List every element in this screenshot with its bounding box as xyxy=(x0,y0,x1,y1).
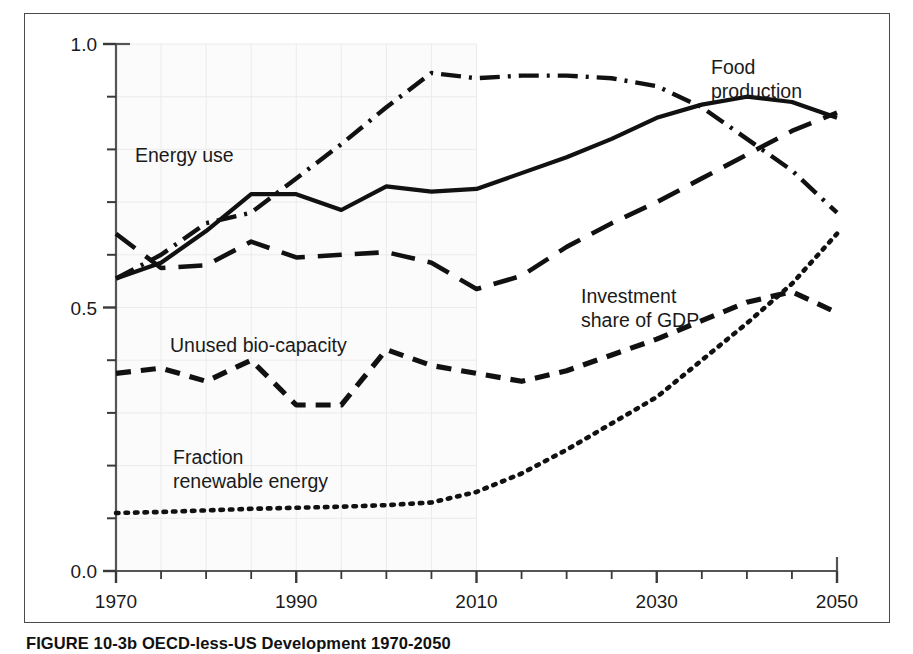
x-tick-label: 2030 xyxy=(636,591,678,612)
line-chart: 19701990201020302050 0.00.51.0 Energy us… xyxy=(25,14,891,624)
x-tick-label: 2010 xyxy=(455,591,497,612)
chart-plot-container: 19701990201020302050 0.00.51.0 Energy us… xyxy=(25,14,891,624)
annotation-energy-use: Energy use xyxy=(135,144,234,166)
y-tick-label: 0.0 xyxy=(71,561,97,582)
annotation-unused-bio-capacity: Unused bio-capacity xyxy=(170,334,347,356)
x-axis-tick-labels: 19701990201020302050 xyxy=(95,591,858,612)
y-tick-label: 1.0 xyxy=(71,34,97,55)
y-tick-label: 0.5 xyxy=(71,298,97,319)
y-axis-tick-labels: 0.00.51.0 xyxy=(71,34,97,582)
figure-caption: FIGURE 10-3b OECD-less-US Development 19… xyxy=(26,634,886,653)
annotation-investment-share: Investmentshare of GDP xyxy=(581,285,699,331)
annotation-food-production: Foodproduction xyxy=(711,56,802,102)
x-tick-label: 1990 xyxy=(275,591,317,612)
x-tick-label: 2050 xyxy=(816,591,858,612)
figure-root: 19701990201020302050 0.00.51.0 Energy us… xyxy=(0,0,913,654)
chart-frame: 19701990201020302050 0.00.51.0 Energy us… xyxy=(24,13,890,623)
x-tick-label: 1970 xyxy=(95,591,137,612)
